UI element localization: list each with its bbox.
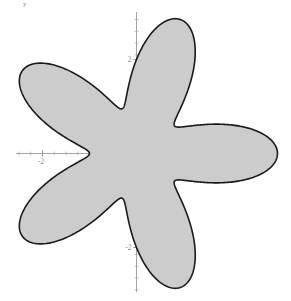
y-tick-label: -2 <box>125 243 131 252</box>
polar-plot-figure: y -2-112 -2-112 <box>0 0 291 301</box>
plot-canvas: -2-112 -2-112 <box>0 0 291 301</box>
y-tick-label: 2 <box>128 55 132 64</box>
x-tick-label: -2 <box>38 157 44 166</box>
